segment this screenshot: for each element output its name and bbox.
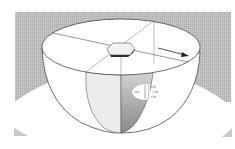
label-right-mid: CM — [153, 90, 158, 94]
label-right-bottom: CM — [151, 95, 156, 99]
label-right-top: CM — [151, 85, 156, 89]
hemisphere-diagram: CM CM CM CM — [0, 0, 235, 149]
label-left: CM — [134, 90, 139, 94]
